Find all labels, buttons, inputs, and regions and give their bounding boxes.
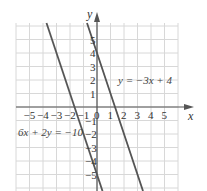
- svg-text:4: 4: [90, 47, 96, 59]
- svg-text:−1: −1: [85, 115, 97, 127]
- svg-text:−4: −4: [37, 109, 49, 121]
- svg-text:1: 1: [90, 88, 96, 100]
- svg-text:3: 3: [90, 61, 96, 73]
- y-axis-label: y: [86, 7, 93, 21]
- svg-text:3: 3: [135, 109, 141, 121]
- svg-text:−5: −5: [24, 109, 36, 121]
- svg-text:2: 2: [90, 74, 96, 86]
- svg-text:−3: −3: [51, 109, 63, 121]
- x-axis-label: x: [187, 109, 194, 123]
- svg-text:5: 5: [90, 34, 96, 46]
- line1-equation: y = −3x + 4: [117, 74, 173, 86]
- svg-text:−2: −2: [64, 109, 76, 121]
- line2-equation: 6x + 2y = −10: [18, 126, 84, 138]
- svg-text:2: 2: [121, 109, 127, 121]
- svg-text:−3: −3: [85, 142, 97, 154]
- svg-text:1: 1: [108, 109, 114, 121]
- svg-text:−4: −4: [85, 155, 97, 167]
- svg-text:5: 5: [162, 109, 168, 121]
- svg-text:4: 4: [148, 109, 154, 121]
- svg-text:−5: −5: [85, 169, 97, 181]
- graph: −5−4−3−2−101234554321−1−2−3−4−5 y = −3x …: [0, 0, 207, 191]
- svg-text:−2: −2: [85, 128, 97, 140]
